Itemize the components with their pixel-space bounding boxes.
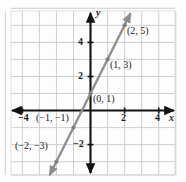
y-tick-4: 4 (78, 37, 83, 47)
point-label-neg2-neg3: (−2, −3) (15, 141, 48, 151)
point-neg2-neg3 (54, 160, 58, 164)
x-axis-name: x (169, 113, 174, 123)
graph-figure: y x −4 2 4 4 2 −2 (2, 5) (1, 3) (0, 1) (… (0, 0, 186, 182)
point-neg1-neg1 (71, 126, 75, 130)
point-label-0-1: (0, 1) (93, 94, 115, 104)
point-label-neg1-neg1: (−1, −1) (36, 113, 69, 123)
x-tick-neg4: −4 (18, 113, 29, 123)
point-label-1-3: (1, 3) (110, 60, 132, 70)
point-0-1 (88, 91, 92, 95)
y-axis-name: y (96, 8, 100, 18)
y-tick-2: 2 (78, 71, 83, 81)
x-tick-2: 2 (121, 113, 126, 123)
x-tick-4: 4 (155, 113, 160, 123)
coordinate-plane (0, 0, 186, 182)
point-label-2-5: (2, 5) (127, 26, 149, 36)
y-tick-neg2: −2 (73, 139, 84, 149)
